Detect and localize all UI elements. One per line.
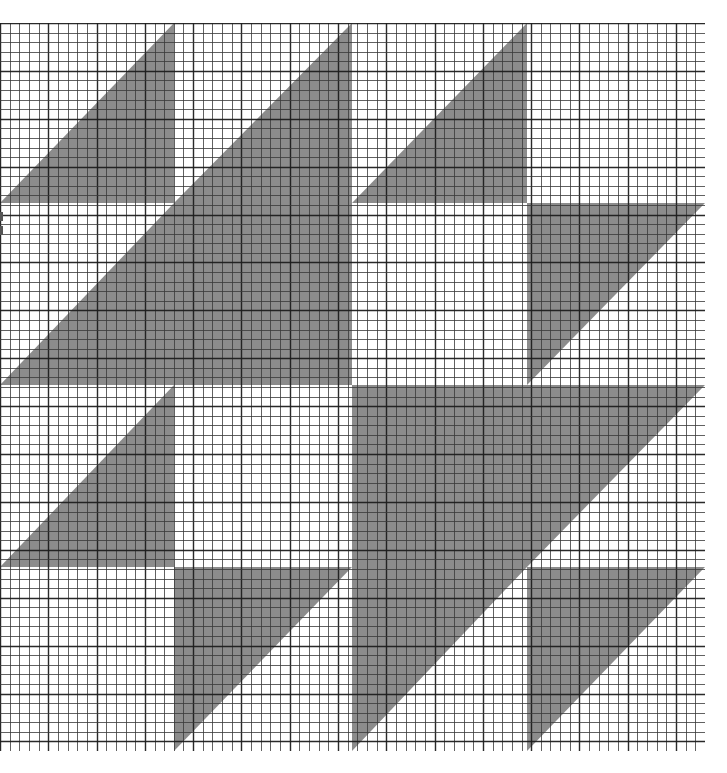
quilt-block-3-2-ul [352,567,527,751]
quilt-block-2-2-f [352,385,527,567]
quilt-block-1-1-f [174,203,352,385]
quilt-block-3-3-ul [527,567,705,751]
scan-edge-mark [0,226,3,235]
quilt-block-1-3-ul [527,203,705,385]
quilt-block-3-1-ul [174,567,352,751]
quilt-svg [0,23,705,751]
scan-edge-mark [0,212,3,221]
quilt-diagram [0,23,705,751]
quilt-block-2-3-ul [527,385,705,567]
